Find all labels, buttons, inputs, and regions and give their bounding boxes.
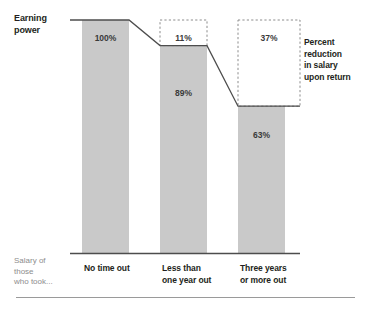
bar-no-time-out: [82, 20, 129, 253]
bar-value-less-than-one-year-out: 89%: [160, 88, 207, 98]
bar-value-three-years-or-more-out: 63%: [238, 130, 285, 140]
category-label-no-time-out: No time out: [84, 263, 130, 275]
category-label-three-years-or-more-out-line-1: Three years: [240, 263, 287, 273]
category-label-less-than-one-year-out-line-1: Less than: [162, 263, 201, 273]
gap-value-three-years-or-more-out: 37%: [238, 33, 300, 43]
category-label-less-than-one-year-out-line-2: one year out: [162, 275, 211, 287]
category-label-less-than-one-year-out: Less than one year out: [162, 263, 211, 286]
category-label-three-years-or-more-out: Three years or more out: [240, 263, 287, 286]
category-label-three-years-or-more-out-line-2: or more out: [240, 275, 287, 287]
bar-less-than-one-year-out: [160, 46, 207, 253]
category-label-no-time-out-line-1: No time out: [84, 263, 130, 273]
gap-value-less-than-one-year-out: 11%: [160, 33, 207, 43]
bar-value-no-time-out: 100%: [82, 33, 129, 43]
bar-three-years-or-more-out: [238, 106, 285, 253]
earning-power-chart: Earning power Percent reduction in salar…: [0, 0, 371, 311]
